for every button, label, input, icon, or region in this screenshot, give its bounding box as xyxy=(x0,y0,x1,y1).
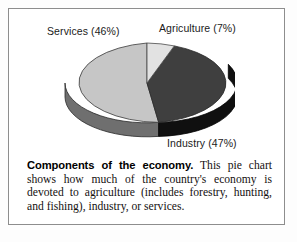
caption-title: Components of the economy. xyxy=(27,159,193,171)
pie-label-services: Services (46%) xyxy=(47,25,120,37)
pie-label-industry: Industry (47%) xyxy=(167,137,237,149)
figure-frame: Services (46%) Agriculture (7%) Industry… xyxy=(8,8,285,225)
figure-caption: Components of the economy. This pie char… xyxy=(27,159,272,213)
pie-chart xyxy=(59,39,235,139)
pie-label-agriculture: Agriculture (7%) xyxy=(159,22,236,34)
pie-chart-area: Services (46%) Agriculture (7%) Industry… xyxy=(9,9,286,149)
figure-root: Services (46%) Agriculture (7%) Industry… xyxy=(0,0,297,242)
